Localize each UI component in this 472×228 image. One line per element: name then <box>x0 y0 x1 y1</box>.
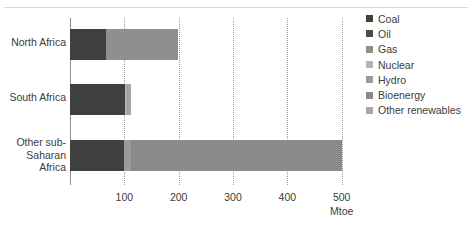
legend-item-oil[interactable]: Oil <box>366 26 470 41</box>
x-tick-label: 200 <box>159 191 199 203</box>
legend-item-bioenergy[interactable]: Bioenergy <box>366 87 470 102</box>
legend-item-coal[interactable]: Coal <box>366 11 470 26</box>
stacked-bar-chart: North AfricaSouth AfricaOther sub-Sahara… <box>0 0 472 228</box>
legend-swatch-icon <box>366 46 373 53</box>
x-tick-label: 500 <box>322 191 362 203</box>
legend-label: Other renewables <box>378 104 461 116</box>
axis-unit-label: Mtoe <box>319 205 365 217</box>
legend-swatch-icon <box>366 92 373 99</box>
legend-label: Hydro <box>378 74 406 86</box>
legend-item-nuclear[interactable]: Nuclear <box>366 57 470 72</box>
legend-item-other-renewables[interactable]: Other renewables <box>366 103 470 118</box>
plot-area <box>70 18 358 185</box>
chart-legend: CoalOilGasNuclearHydroBioenergyOther ren… <box>366 11 470 118</box>
gridline-500 <box>342 18 343 185</box>
bar-segment-other-renewables <box>128 84 131 115</box>
x-tick-label: 300 <box>213 191 253 203</box>
bar-segment-coal <box>70 29 106 60</box>
legend-label: Bioenergy <box>378 89 425 101</box>
legend-item-gas[interactable]: Gas <box>366 42 470 57</box>
category-label: South Africa <box>2 91 66 104</box>
x-tick-label: 100 <box>104 191 144 203</box>
legend-swatch-icon <box>366 61 373 68</box>
legend-label: Coal <box>378 13 400 25</box>
bar-segment-hydro <box>124 140 131 171</box>
legend-label: Nuclear <box>378 59 414 71</box>
bar-segment-coal <box>70 84 125 115</box>
category-label: Other sub-Saharan Africa <box>2 136 66 174</box>
legend-swatch-icon <box>366 15 373 22</box>
bar-segment-coal <box>70 140 124 171</box>
top-divider <box>4 7 468 8</box>
bar-segment-gas <box>106 29 177 60</box>
x-tick-label: 400 <box>267 191 307 203</box>
legend-item-hydro[interactable]: Hydro <box>366 72 470 87</box>
legend-swatch-icon <box>366 30 373 37</box>
legend-swatch-icon <box>366 107 373 114</box>
legend-label: Gas <box>378 43 397 55</box>
category-label: North Africa <box>2 36 66 49</box>
legend-swatch-icon <box>366 76 373 83</box>
legend-label: Oil <box>378 28 391 40</box>
bar-segment-bioenergy <box>131 140 342 171</box>
